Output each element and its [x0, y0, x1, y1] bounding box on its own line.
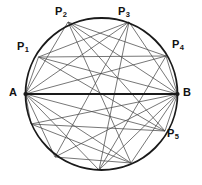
label-p4-subscript: 4 — [180, 43, 184, 52]
label-a-text: A — [9, 86, 17, 98]
circle-diagram — [0, 0, 202, 185]
label-p3-subscript: 3 — [126, 10, 130, 19]
label-p2-subscript: 2 — [63, 10, 67, 19]
label-b-text: B — [183, 86, 191, 98]
spoke-a-p5 — [26, 94, 166, 131]
label-p5: P5 — [167, 128, 179, 139]
chord-p1-p4 — [39, 56, 167, 57]
spoke-b-q3 — [99, 94, 178, 170]
label-p2-text: P — [55, 5, 62, 17]
vertex-dot-a — [23, 92, 27, 96]
label-p4: P4 — [172, 39, 184, 50]
label-p5-text: P — [167, 127, 174, 139]
vertex-dot-b — [175, 92, 179, 96]
geometry-figure: P1P2P3P4P5AB — [0, 0, 202, 185]
label-a: A — [9, 87, 17, 98]
chord-p3-q2 — [55, 22, 129, 157]
label-p2: P2 — [55, 6, 67, 17]
label-p3-text: P — [118, 5, 125, 17]
label-b: B — [183, 87, 191, 98]
spoke-b-q1 — [31, 94, 178, 124]
label-p1-subscript: 1 — [25, 45, 29, 54]
label-p1: P1 — [17, 41, 29, 52]
chords-layer — [31, 22, 166, 170]
label-p1-text: P — [17, 40, 24, 52]
spoke-a-p2 — [26, 22, 69, 94]
label-p4-text: P — [172, 38, 179, 50]
label-p3: P3 — [118, 6, 130, 17]
label-p5-subscript: 5 — [175, 132, 179, 141]
